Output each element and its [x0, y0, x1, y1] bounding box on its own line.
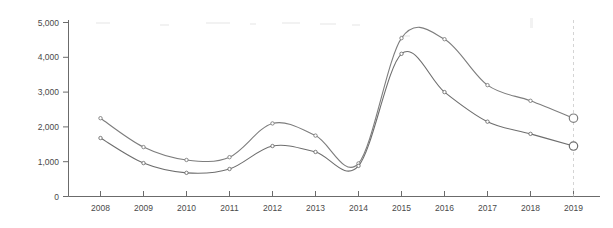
x-tick-label-2017: 2017 [478, 203, 497, 213]
data-point-marker [99, 136, 102, 139]
series-layer [99, 27, 578, 174]
y-axis: 5,000 4,000 3,000 2,000 1,000 0 [38, 18, 69, 202]
series-lower-series [99, 51, 578, 174]
data-point-marker [529, 99, 532, 102]
x-tick-label-2014: 2014 [349, 203, 368, 213]
data-point-marker [271, 144, 274, 147]
data-point-marker [400, 52, 403, 55]
scan-noise [96, 18, 533, 37]
chart-canvas: 5,000 4,000 3,000 2,000 1,000 0 2008 200… [0, 0, 613, 228]
series-line [101, 51, 574, 173]
data-point-marker [443, 90, 446, 93]
x-tick-label-2018: 2018 [521, 203, 540, 213]
x-tick-label-2012: 2012 [263, 203, 282, 213]
data-point-marker [99, 117, 102, 120]
x-axis: 2008 2009 2010 2011 2012 2013 2014 2015 … [69, 191, 601, 213]
data-point-marker [142, 161, 145, 164]
data-point-marker [529, 132, 532, 135]
data-point-marker [486, 83, 489, 86]
x-tick-label-2008: 2008 [91, 203, 110, 213]
x-tick-label-2011: 2011 [220, 203, 239, 213]
data-point-marker [271, 122, 274, 125]
data-point-marker [314, 150, 317, 153]
x-tick-label-2016: 2016 [435, 203, 454, 213]
data-point-marker [443, 38, 446, 41]
x-tick-label-2015: 2015 [392, 203, 411, 213]
series-line [101, 27, 574, 167]
data-point-marker [185, 158, 188, 161]
end-point-marker [569, 114, 577, 122]
y-tick-label-1000: 1,000 [38, 157, 60, 167]
data-point-marker [228, 155, 231, 158]
x-tick-label-2019: 2019 [564, 203, 583, 213]
y-tick-label-5000: 5,000 [38, 18, 60, 28]
series-upper-series [99, 27, 578, 167]
data-point-marker [185, 171, 188, 174]
data-point-marker [142, 145, 145, 148]
data-point-marker [486, 120, 489, 123]
y-tick-label-4000: 4,000 [38, 52, 60, 62]
end-point-marker [569, 142, 577, 150]
data-point-marker [357, 164, 360, 167]
data-point-marker [314, 134, 317, 137]
y-tick-label-2000: 2,000 [38, 122, 60, 132]
x-tick-label-2009: 2009 [134, 203, 153, 213]
line-chart: 5,000 4,000 3,000 2,000 1,000 0 2008 200… [0, 0, 613, 228]
x-tick-label-2010: 2010 [177, 203, 196, 213]
x-tick-label-2013: 2013 [306, 203, 325, 213]
y-tick-label-0: 0 [54, 192, 59, 202]
y-tick-label-3000: 3,000 [38, 87, 60, 97]
data-point-marker [400, 36, 403, 39]
data-point-marker [228, 167, 231, 170]
